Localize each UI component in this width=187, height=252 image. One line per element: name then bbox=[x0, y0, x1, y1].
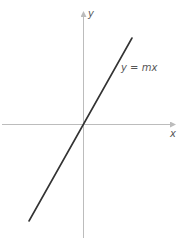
line-label-mx: mx bbox=[142, 62, 158, 73]
x-axis-label: x bbox=[169, 128, 176, 139]
line-label: y = mx bbox=[120, 62, 157, 73]
line-y-equals-mx bbox=[29, 38, 132, 221]
y-axis-label: y bbox=[87, 8, 95, 19]
line-label-equals: = bbox=[127, 62, 142, 73]
graph-canvas: y x y = mx bbox=[0, 0, 187, 252]
